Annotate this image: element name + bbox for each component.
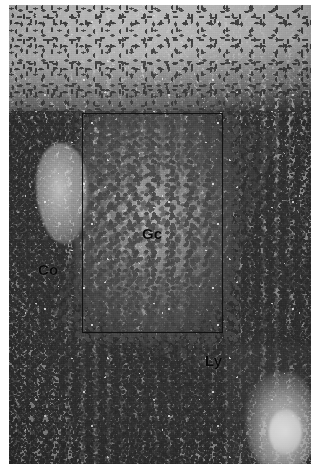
label-cortex: Co xyxy=(38,262,58,277)
histology-figure: Gc Co Ly xyxy=(0,0,322,467)
label-germinal-center: Gc xyxy=(142,226,162,241)
region-of-interest-rectangle xyxy=(82,113,223,333)
label-lymphocytes: Ly xyxy=(205,353,222,368)
micrograph-image: Gc Co Ly xyxy=(9,5,311,464)
